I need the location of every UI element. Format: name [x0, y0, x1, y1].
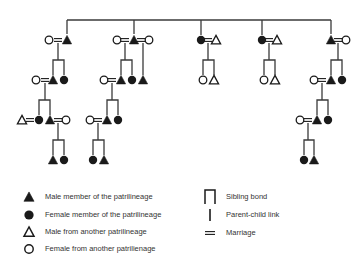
marriage-icon — [41, 79, 49, 82]
filled-circle-icon — [338, 76, 346, 84]
legend-label-marriage: Marriage — [226, 228, 256, 238]
filled-circle-icon — [35, 116, 43, 124]
hollow-circle-icon — [45, 36, 53, 44]
marriage-icon — [205, 232, 215, 235]
hollow-triangle-icon — [270, 75, 279, 84]
hollow-circle-icon — [86, 116, 94, 124]
legend-label-female-member: Female member of the patrilineage — [45, 210, 161, 220]
filled-triangle-icon — [138, 75, 147, 84]
hollow-triangle-icon — [272, 35, 281, 44]
filled-triangle-icon — [62, 35, 71, 44]
hollow-circle-icon — [62, 116, 70, 124]
hollow-circle-icon — [310, 76, 318, 84]
marriage-icon — [94, 119, 102, 122]
filled-circle-icon — [60, 156, 68, 164]
filled-circle-icon — [60, 76, 68, 84]
sibling-bond-icon — [205, 190, 215, 204]
filled-circle-icon — [324, 116, 332, 124]
hollow-triangle-icon — [211, 35, 220, 44]
sibling-bond — [121, 60, 132, 75]
legend-label-parent-child-link: Parent-child link — [226, 210, 279, 220]
filled-triangle-icon — [116, 75, 125, 84]
marriage-icon — [304, 119, 312, 122]
sibling-bond — [53, 140, 64, 155]
marriage-icon — [108, 79, 116, 82]
sibling-bond — [203, 60, 214, 75]
filled-triangle-icon — [24, 192, 34, 201]
hollow-circle-icon — [100, 76, 108, 84]
marriage-icon — [54, 119, 62, 122]
filled-triangle-icon — [48, 155, 57, 164]
hollow-circle-icon — [25, 245, 33, 253]
sibling-bond — [93, 140, 104, 155]
sibling-bond — [53, 60, 64, 75]
filled-circle-icon — [300, 156, 308, 164]
hollow-circle-icon — [199, 76, 207, 84]
hollow-circle-icon — [145, 36, 153, 44]
filled-circle-icon — [197, 36, 205, 44]
filled-triangle-icon — [45, 115, 54, 124]
sibling-bond — [317, 100, 328, 115]
filled-triangle-icon — [129, 35, 138, 44]
filled-triangle-icon — [102, 115, 111, 124]
sibling-bond — [264, 60, 275, 75]
filled-circle-icon — [114, 116, 122, 124]
marriage-icon — [318, 79, 326, 82]
sibling-bond — [39, 100, 50, 115]
filled-triangle-icon — [48, 75, 57, 84]
marriage-icon — [265, 39, 273, 42]
legend-label-male-member: Male member of the patrilineage — [45, 192, 153, 202]
sibling-bond — [304, 140, 314, 155]
filled-triangle-icon — [99, 155, 108, 164]
sibling-bond — [331, 60, 342, 75]
filled-circle-icon — [128, 76, 136, 84]
marriage-icon — [121, 39, 129, 42]
hollow-circle-icon — [32, 76, 40, 84]
hollow-triangle-icon — [17, 115, 26, 124]
marriage-icon — [54, 39, 62, 42]
filled-triangle-icon — [326, 75, 335, 84]
hollow-circle-icon — [296, 116, 304, 124]
hollow-circle-icon — [260, 76, 268, 84]
filled-circle-icon — [24, 210, 33, 219]
filled-triangle-icon — [309, 155, 318, 164]
kinship-nodes — [17, 35, 349, 164]
filled-circle-icon — [258, 36, 266, 44]
sibling-bond — [107, 100, 118, 115]
kinship-lines — [39, 20, 342, 155]
legend-label-sibling-bond: Sibling bond — [226, 192, 267, 202]
legend-label-male-other: Male from another patrilineage — [45, 227, 147, 237]
filled-circle-icon — [89, 156, 97, 164]
hollow-triangle-icon — [209, 75, 218, 84]
hollow-circle-icon — [113, 36, 121, 44]
hollow-triangle-icon — [24, 227, 34, 236]
hollow-circle-icon — [342, 36, 350, 44]
filled-triangle-icon — [312, 115, 321, 124]
marriage-icon — [26, 119, 34, 122]
legend-label-female-other: Female from another patrilienage — [45, 244, 155, 254]
filled-triangle-icon — [326, 35, 335, 44]
marriage-icon — [137, 39, 145, 42]
marriage-signs — [26, 39, 342, 122]
marriage-icon — [334, 39, 342, 42]
